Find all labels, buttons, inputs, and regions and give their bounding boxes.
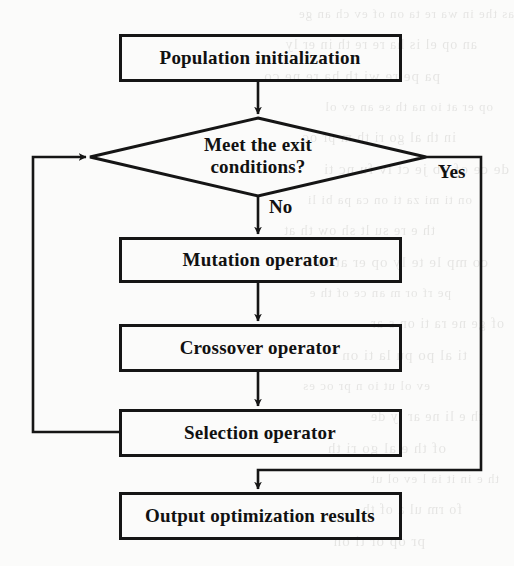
edge-label-no: No	[269, 196, 292, 218]
decision-label-line-1: Meet the exit	[158, 134, 358, 156]
node-label-population-initialization: Population initialization	[120, 47, 400, 68]
node-label-crossover-operator: Crossover operator	[120, 337, 400, 358]
node-label-selection-operator: Selection operator	[120, 422, 400, 443]
decision-label-line-2: conditions?	[158, 156, 358, 178]
node-label-output-optimization-results: Output optimization results	[120, 505, 400, 526]
edge-label-yes: Yes	[438, 161, 465, 183]
node-label-mutation-operator: Mutation operator	[120, 249, 400, 270]
node-label-meet-exit-conditions: Meet the exit conditions?	[158, 134, 358, 177]
edge-selection-to-decision-feedback	[33, 157, 120, 432]
flowchart-page: as the in wa re ta on of ev ch an gean o…	[0, 0, 514, 566]
flowchart-graphics	[0, 0, 514, 566]
